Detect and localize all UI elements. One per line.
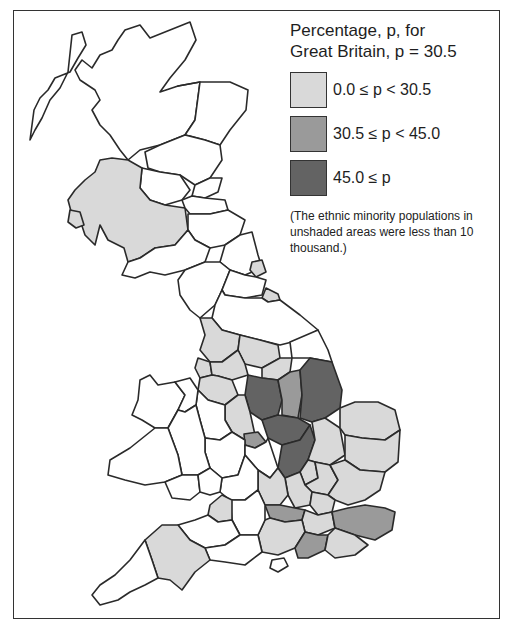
england-wales [92,232,400,605]
legend-title-line1: Percentage, p, for [290,20,500,41]
region-lincolnshire [300,358,342,422]
legend-title-line2: Great Britain, p = 30.5 [290,41,500,62]
region-cornwall [92,540,158,605]
legend-label-medium: 30.5 ≤ p < 45.0 [333,125,440,143]
legend-label-low: 0.0 ≤ p < 30.5 [333,81,431,99]
legend-label-high: 45.0 ≤ p [333,169,391,187]
region-nottinghamshire [278,370,302,418]
region-tyne-wear [250,260,266,277]
legend-item-low: 0.0 ≤ p < 30.5 [290,68,500,112]
legend: Percentage, p, for Great Britain, p = 30… [290,20,500,256]
legend-note: (The ethnic minority populations in unsh… [290,208,500,256]
legend-swatch-high [290,160,327,196]
legend-swatch-medium [290,116,327,152]
region-norfolk [340,402,400,440]
legend-title: Percentage, p, for Great Britain, p = 30… [290,20,500,62]
legend-item-medium: 30.5 ≤ p < 45.0 [290,112,500,156]
legend-item-high: 45.0 ≤ p [290,156,500,200]
region-isle-of-wight [270,558,288,572]
region-western-isles [30,32,86,140]
region-dyfed [108,428,182,485]
legend-swatch-low [290,72,327,108]
scotland [30,22,248,278]
